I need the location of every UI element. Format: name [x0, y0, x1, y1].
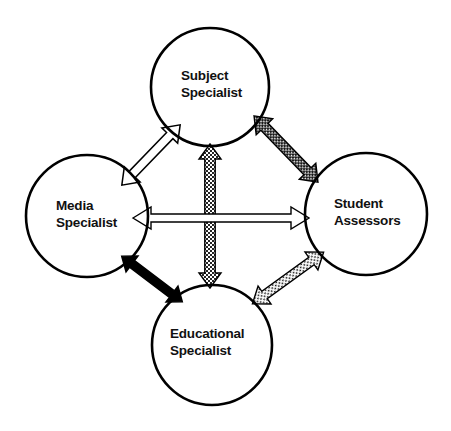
node-label-media-specialist-line1: Media [56, 198, 94, 213]
connector-student-to-educational [246, 243, 330, 313]
node-label-student-assessors-line1: Student [334, 196, 384, 211]
arrow-shape-student-educational [246, 243, 330, 313]
node-label-educational-specialist-line2: Specialist [170, 343, 232, 358]
node-educational-specialist[interactable]: Educational Specialist [152, 285, 272, 405]
node-media-specialist[interactable]: Media Specialist [26, 155, 148, 277]
arrow-shape-media-educational [116, 248, 189, 310]
diagram-canvas: Subject Specialist Media Specialist Stud… [0, 0, 451, 431]
connector-media-to-educational [116, 248, 189, 310]
node-label-educational-specialist-line1: Educational [170, 326, 244, 341]
node-label-media-specialist-line2: Specialist [56, 215, 118, 230]
node-subject-specialist[interactable]: Subject Specialist [151, 28, 269, 146]
node-label-student-assessors-line2: Assessors [334, 213, 401, 228]
connector-media-to-subject [114, 117, 188, 193]
node-student-assessors[interactable]: Student Assessors [305, 153, 427, 275]
diagram-svg: Subject Specialist Media Specialist Stud… [0, 0, 451, 431]
connector-media-to-student [133, 207, 309, 229]
arrow-shape-media-subject [114, 117, 188, 193]
node-label-subject-specialist-line1: Subject [181, 68, 229, 83]
arrow-shape-media-student [133, 207, 309, 229]
node-label-subject-specialist-line2: Specialist [181, 85, 243, 100]
